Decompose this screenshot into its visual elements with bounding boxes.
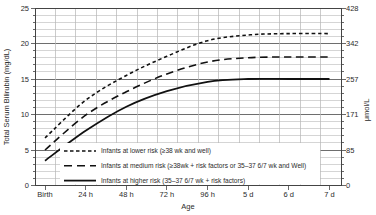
chart-canvas: Infants at lower risk (≥38 wk and well)I… (0, 0, 376, 215)
y-axis-right-tick-label: 0 (346, 181, 350, 190)
y-axis-right-tick-label: 85 (346, 146, 354, 155)
y-axis-left-tick-label: 25 (21, 4, 29, 13)
x-axis-tick-label: Birth (37, 190, 52, 199)
x-axis-tick-label: 48 h (119, 190, 134, 199)
x-axis-tick-label: 96 h (200, 190, 215, 199)
x-axis-tick-label: 24 h (78, 190, 93, 199)
y-axis-left-tick-label: 15 (21, 75, 29, 84)
x-axis-tick-label: 5 d (243, 190, 253, 199)
y-axis-right-tick-label: 342 (346, 39, 359, 48)
y-axis-left-tick-label: 10 (21, 110, 29, 119)
x-axis-tick-label: 72 h (160, 190, 175, 199)
series-curves (45, 33, 330, 160)
y-axis-left-tick-label: 5 (25, 146, 29, 155)
legend-label: Infants at medium risk (≥38wk + risk fac… (101, 162, 306, 170)
bilirubin-nomogram-chart: Infants at lower risk (≥38 wk and well)I… (0, 0, 376, 215)
y-axis-right-tick-label: 428 (346, 4, 359, 13)
legend: Infants at lower risk (≥38 wk and well)I… (60, 143, 320, 185)
x-axis-tick-label: 7 d (324, 190, 334, 199)
y-axis-left-tick-label: 0 (25, 181, 29, 190)
legend-label: Infants at lower risk (≥38 wk and well) (101, 147, 211, 155)
legend-label: Infants at higher risk (35–37 6/7 wk + r… (101, 177, 245, 185)
y-axis-right-title: μmol/L (362, 99, 371, 122)
x-axis-title: Age (181, 202, 194, 211)
y-axis-left-title: Total Serum Bilirubin (mg/dL) (2, 48, 11, 145)
y-axis-right-tick-label: 257 (346, 75, 359, 84)
y-axis-left-tick-label: 20 (21, 39, 29, 48)
x-axis-tick-label: 6 d (284, 190, 294, 199)
y-axis-right-tick-label: 171 (346, 110, 359, 119)
